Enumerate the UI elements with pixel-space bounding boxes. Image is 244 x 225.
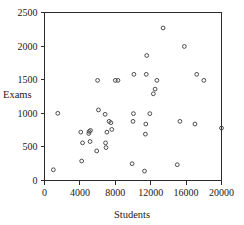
y-tick-label: 2000 <box>18 41 38 52</box>
data-point <box>132 112 136 116</box>
scatter-plot-figure: 05001000150020002500 0400080001200016000… <box>0 0 244 225</box>
data-point <box>175 163 179 167</box>
data-point <box>56 111 60 115</box>
data-point <box>95 149 99 153</box>
data-point <box>97 108 101 112</box>
data-point <box>195 72 199 76</box>
data-point <box>143 132 147 136</box>
data-point <box>131 119 135 123</box>
y-tick-label: 1000 <box>18 108 38 119</box>
data-point <box>51 168 55 172</box>
data-point <box>130 162 134 166</box>
data-point <box>80 159 84 163</box>
data-point <box>144 72 148 76</box>
data-point <box>132 72 136 76</box>
data-point <box>145 54 149 58</box>
data-point <box>105 130 109 134</box>
x-tick-label: 20000 <box>209 187 234 198</box>
data-point <box>116 78 120 82</box>
data-point <box>151 92 155 96</box>
data-point <box>104 146 108 150</box>
data-point <box>178 119 182 123</box>
y-tick-label: 500 <box>23 141 38 152</box>
x-axis-ticks <box>45 181 222 185</box>
y-tick-label: 1500 <box>18 74 38 85</box>
data-point <box>202 78 206 82</box>
data-point <box>161 26 165 30</box>
x-tick-label: 12000 <box>138 187 163 198</box>
data-point <box>148 112 152 116</box>
y-axis-title: Exams <box>3 89 32 100</box>
plot-frame <box>45 13 222 181</box>
data-point <box>79 130 83 134</box>
data-point <box>88 140 92 144</box>
data-point <box>153 87 157 91</box>
plot-canvas: 05001000150020002500 0400080001200016000… <box>0 0 244 225</box>
y-tick-label: 0 <box>33 175 38 186</box>
data-point <box>193 122 197 126</box>
data-point <box>96 78 100 82</box>
data-point <box>182 45 186 49</box>
data-point <box>144 122 148 126</box>
data-point <box>110 128 114 132</box>
data-point <box>143 169 147 173</box>
data-point <box>155 78 159 82</box>
x-tick-label: 0 <box>42 187 47 198</box>
data-point-group <box>51 26 223 173</box>
data-point <box>103 112 107 116</box>
x-axis-tick-labels: 040008000120001600020000 <box>42 187 234 198</box>
axes-frame <box>45 13 222 181</box>
y-axis-ticks <box>41 13 45 181</box>
data-point <box>81 141 85 145</box>
data-point <box>104 141 108 145</box>
x-tick-label: 4000 <box>70 187 90 198</box>
x-tick-label: 8000 <box>105 187 125 198</box>
x-tick-label: 16000 <box>174 187 199 198</box>
x-axis-title: Students <box>114 209 150 220</box>
y-tick-label: 2500 <box>18 7 38 18</box>
